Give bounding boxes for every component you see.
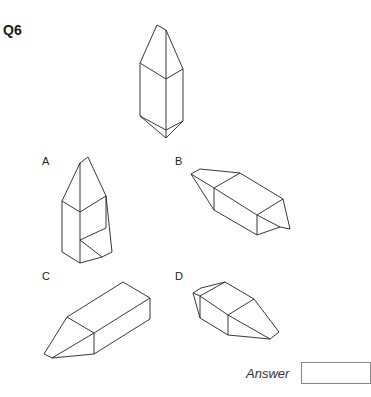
answer-label: Answer [246, 366, 289, 381]
option-d-label: D [175, 270, 183, 282]
option-b-shape [191, 169, 290, 235]
option-a-shape [62, 157, 112, 263]
option-a-label: A [42, 155, 49, 167]
option-b-label: B [175, 155, 182, 167]
option-c-label: C [42, 270, 50, 282]
option-c-shape [44, 282, 150, 358]
option-d-shape [193, 282, 279, 339]
answer-input[interactable] [301, 362, 371, 384]
target-crystal-shape [140, 25, 183, 138]
